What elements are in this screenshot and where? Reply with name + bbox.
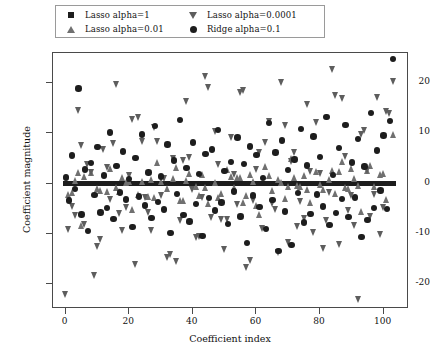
data-point: [301, 219, 307, 225]
data-point: [72, 186, 78, 192]
data-point: [348, 165, 354, 172]
data-point: [154, 159, 160, 166]
data-point: [310, 133, 316, 139]
data-point: [234, 201, 240, 208]
square-icon: [64, 8, 78, 22]
data-point: [278, 79, 284, 86]
data-point: [107, 196, 113, 203]
data-point: [82, 166, 88, 172]
data-point: [243, 192, 249, 199]
data-point: [345, 214, 351, 220]
data-point: [78, 142, 84, 149]
x-tick-mark: [255, 308, 256, 314]
y-tick-label: 20: [386, 77, 430, 86]
y-tick-label: -20: [386, 278, 430, 287]
data-point: [326, 222, 332, 228]
data-point: [161, 206, 167, 212]
data-point: [364, 217, 370, 223]
data-point: [135, 114, 141, 121]
data-point: [307, 199, 313, 206]
data-point: [193, 234, 199, 241]
data-point: [332, 92, 338, 99]
data-point: [345, 207, 351, 214]
data-point: [142, 194, 148, 201]
data-point: [104, 164, 110, 171]
data-point: [97, 209, 103, 215]
data-point: [129, 206, 135, 213]
x-tick-label: 80: [299, 317, 339, 326]
data-point: [113, 81, 119, 88]
data-point: [295, 190, 301, 196]
data-point: [62, 291, 68, 298]
y-tick-label: 0: [386, 178, 430, 187]
data-point: [117, 189, 123, 195]
data-point: [148, 215, 154, 221]
data-point: [94, 243, 100, 250]
data-point: [104, 205, 110, 211]
data-point: [336, 168, 342, 175]
data-point: [72, 177, 78, 184]
data-point: [237, 213, 243, 219]
data-point: [139, 131, 145, 137]
data-point: [320, 203, 326, 209]
data-point: [69, 152, 75, 158]
data-point: [205, 200, 211, 207]
data-point: [231, 171, 237, 178]
data-point: [100, 146, 106, 153]
data-point: [304, 162, 310, 168]
data-point: [66, 197, 72, 203]
data-point: [180, 197, 186, 204]
data-point: [253, 152, 259, 158]
y-tick-label: -10: [386, 228, 430, 237]
data-point: [129, 116, 135, 123]
data-point: [234, 134, 240, 140]
data-point: [212, 179, 218, 186]
data-point: [212, 207, 218, 213]
data-point: [221, 168, 227, 174]
data-point: [256, 204, 262, 210]
data-point: [355, 296, 361, 303]
data-point: [225, 221, 231, 227]
data-point: [282, 122, 288, 129]
data-point: [310, 229, 316, 236]
x-axis-title: Coefficient index: [52, 333, 408, 344]
data-point: [301, 172, 307, 179]
data-point: [278, 179, 284, 186]
data-point: [304, 101, 310, 108]
data-point: [374, 147, 380, 153]
data-point: [228, 159, 234, 165]
data-point: [101, 172, 107, 178]
data-point: [78, 211, 84, 217]
data-point: [314, 191, 320, 197]
y-tick-mark: [46, 132, 52, 133]
data-point: [113, 163, 119, 169]
data-point: [260, 175, 266, 181]
data-point: [104, 188, 110, 195]
data-point: [291, 156, 297, 162]
data-point: [186, 170, 192, 177]
data-point: [294, 223, 300, 230]
data-point: [317, 154, 323, 160]
legend-label: Lasso alpha=0.0001: [207, 10, 297, 20]
data-point: [333, 210, 339, 216]
data-point: [279, 137, 285, 143]
data-point: [371, 205, 377, 211]
data-point: [262, 163, 268, 170]
circle-icon: [186, 22, 200, 36]
legend-item-lasso-alpha-00001: Lasso alpha=0.0001: [178, 8, 326, 22]
legend-label: Ridge alpha=0.1: [207, 24, 281, 34]
data-point: [313, 119, 319, 126]
data-point: [272, 206, 278, 213]
data-point: [297, 198, 303, 205]
data-point: [332, 190, 338, 197]
data-point: [228, 134, 234, 141]
data-point: [215, 161, 221, 168]
data-point: [173, 164, 179, 171]
data-point: [91, 272, 97, 279]
data-point: [209, 146, 215, 152]
data-point: [380, 170, 386, 177]
data-point: [336, 145, 342, 151]
data-point: [329, 66, 335, 73]
data-point: [218, 216, 224, 223]
data-point: [110, 216, 116, 222]
